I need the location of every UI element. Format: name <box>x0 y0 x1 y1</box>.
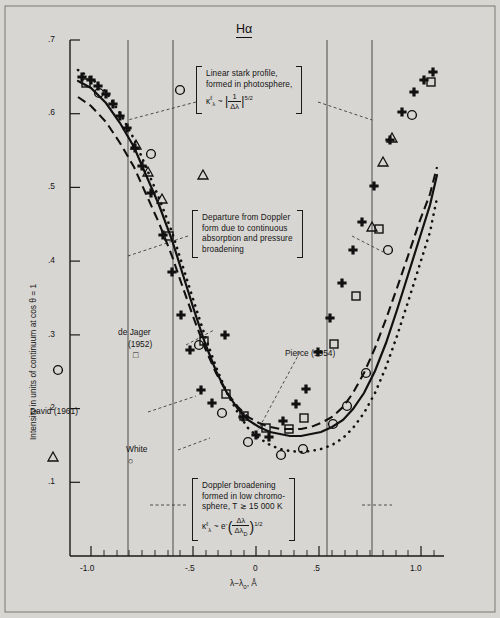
annotation-line: broadening <box>202 245 293 256</box>
series-label-dejager-year: (1952) <box>128 339 152 349</box>
fraction-denominator: Δλ <box>228 102 241 111</box>
den-subscript: D <box>243 530 247 536</box>
fraction-numerator: 1 <box>228 92 241 102</box>
leader-lines <box>128 102 392 505</box>
figure-panel: Hα Intensity in units of continuum at co… <box>0 0 500 618</box>
y-tick-label: .6 <box>48 107 55 117</box>
bracket-right <box>297 210 303 258</box>
kappa-subscript: λ <box>208 527 211 533</box>
series-marker-white-icon: ○ <box>128 456 133 466</box>
annotation-departure-doppler: Departure from Doppler form due to conti… <box>192 210 303 258</box>
annotation-line: sphere, T ≳ 15 000 K <box>202 502 285 513</box>
formula-exponent: 1/2 <box>254 520 263 526</box>
y-tick-label: .7 <box>48 34 55 44</box>
fraction-numerator: Δλ <box>232 516 249 526</box>
annotation-line: formed in photosphere, <box>206 80 292 91</box>
y-tick-label: .4 <box>48 255 55 265</box>
annotation-line: form due to continuous <box>202 224 293 235</box>
x-tick-label: -1.0 <box>80 563 94 573</box>
x-axis-ticks <box>91 546 434 556</box>
x-axis-label-text: λ−λ <box>230 578 243 588</box>
x-tick-label: -.5 <box>185 563 195 573</box>
fraction-denominator: ΔλD <box>232 526 249 539</box>
series-label-name: White <box>126 444 147 454</box>
relation-symbol: ~ <box>218 97 223 106</box>
series-label-david: David (1961) <box>30 406 78 416</box>
annotation-line: Doppler broadening <box>202 481 285 492</box>
x-axis-label: λ−λ0, Å <box>230 578 257 590</box>
y-axis-label: Intensity in units of continuum at cos θ… <box>28 284 38 440</box>
bracket-right <box>289 478 295 541</box>
annotation-line: absorption and pressure <box>202 234 293 245</box>
curve-dotted <box>78 70 437 452</box>
x-tick-label: 1.0 <box>410 563 422 573</box>
curve-solid <box>78 81 437 436</box>
y-tick-label: .1 <box>48 476 55 486</box>
annotation-line: formed in low chromo- <box>202 492 285 503</box>
series-label-dejager: de Jager <box>118 327 151 337</box>
fraction: ΔλΔλD <box>232 516 249 539</box>
y-tick-label: .5 <box>48 181 55 191</box>
x-axis-label-unit: , Å <box>247 578 257 588</box>
fraction: 1Δλ <box>228 92 241 111</box>
series-label-year: (1952) <box>128 339 152 349</box>
series-label-name: de Jager <box>118 327 151 337</box>
circle-icon: ○ <box>128 456 133 466</box>
relation-symbol: ~ <box>214 522 219 531</box>
series-label-white: White <box>126 444 147 454</box>
series-marker-dejager-icon: □ <box>133 350 138 360</box>
series-label-pierce: Pierce (1954) <box>285 348 335 358</box>
series-label-name: Pierce (1954) <box>285 348 335 358</box>
markers-david <box>48 133 397 461</box>
y-tick-label: .3 <box>48 329 55 339</box>
series-label-name: David (1961) <box>30 406 78 416</box>
bracket-right <box>296 66 302 114</box>
annotation-line: Linear stark profile, <box>206 69 292 80</box>
kappa-subscript: λ <box>212 101 215 107</box>
annotation-line: Departure from Doppler <box>202 213 293 224</box>
x-tick-label: .5 <box>313 563 320 573</box>
formula-exponent: 5/2 <box>245 95 254 101</box>
annotation-linear-stark: Linear stark profile, formed in photosph… <box>196 66 302 114</box>
kappa-superscript: ℓ <box>206 520 208 526</box>
x-tick-label: 0 <box>253 563 258 573</box>
page-title: Hα <box>236 22 252 38</box>
square-icon: □ <box>133 350 138 360</box>
annotation-doppler-broadening: Doppler broadening formed in low chromo-… <box>192 478 295 541</box>
